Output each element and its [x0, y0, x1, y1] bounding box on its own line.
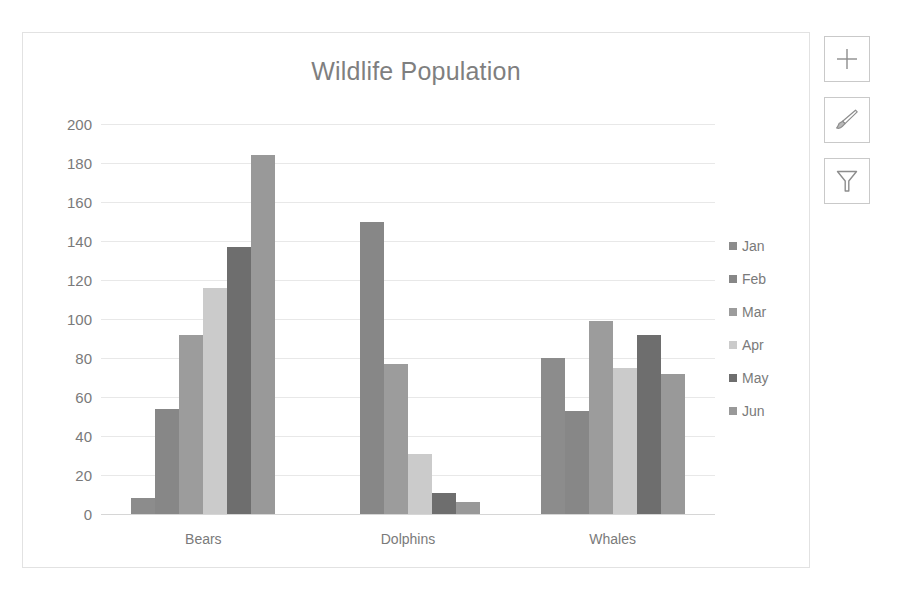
y-axis-tick-label: 100: [67, 311, 92, 328]
bar[interactable]: [131, 498, 155, 514]
legend-item-jun[interactable]: Jun: [729, 394, 809, 427]
bar[interactable]: [155, 409, 179, 514]
y-axis-tick-label: 20: [75, 467, 92, 484]
plot-area: 020406080100120140160180200 BearsDolphin…: [101, 124, 715, 514]
plus-icon: [834, 46, 860, 72]
y-axis-tick-label: 40: [75, 428, 92, 445]
paintbrush-icon: [833, 106, 861, 134]
bar[interactable]: [541, 358, 565, 514]
bar[interactable]: [456, 502, 480, 514]
legend-label: Feb: [742, 271, 766, 287]
funnel-icon: [834, 168, 860, 194]
bar-group-whales: [541, 124, 685, 514]
chart-styles-button[interactable]: [824, 97, 870, 143]
bar[interactable]: [251, 155, 275, 514]
bar[interactable]: [360, 222, 384, 515]
legend-label: Apr: [742, 337, 764, 353]
chart-filters-button[interactable]: [824, 158, 870, 204]
legend-swatch-icon: [729, 242, 737, 250]
legend-item-may[interactable]: May: [729, 361, 809, 394]
bar[interactable]: [565, 411, 589, 514]
y-axis-tick-label: 60: [75, 389, 92, 406]
chart-title: Wildlife Population: [23, 57, 809, 86]
legend-label: Jan: [742, 238, 765, 254]
legend-item-feb[interactable]: Feb: [729, 262, 809, 295]
bar[interactable]: [227, 247, 251, 514]
chart-elements-button[interactable]: [824, 36, 870, 82]
chart-legend[interactable]: JanFebMarAprMayJun: [729, 229, 809, 427]
bar[interactable]: [637, 335, 661, 514]
bar[interactable]: [432, 493, 456, 514]
x-axis-category-label: Bears: [185, 531, 222, 547]
bar[interactable]: [179, 335, 203, 514]
bar[interactable]: [203, 288, 227, 514]
y-axis-tick-label: 120: [67, 272, 92, 289]
y-axis-tick-label: 200: [67, 116, 92, 133]
bar[interactable]: [408, 454, 432, 514]
legend-item-apr[interactable]: Apr: [729, 328, 809, 361]
chart-tools-toolbar: [824, 36, 872, 219]
legend-swatch-icon: [729, 308, 737, 316]
legend-label: May: [742, 370, 768, 386]
x-axis-category-label: Dolphins: [381, 531, 435, 547]
bar-group-bears: [131, 124, 275, 514]
bar[interactable]: [661, 374, 685, 514]
legend-label: Mar: [742, 304, 766, 320]
legend-item-jan[interactable]: Jan: [729, 229, 809, 262]
y-axis-tick-label: 140: [67, 233, 92, 250]
legend-swatch-icon: [729, 341, 737, 349]
bar[interactable]: [613, 368, 637, 514]
bar[interactable]: [384, 364, 408, 514]
bar-group-dolphins: [336, 124, 480, 514]
y-axis-tick-label: 0: [84, 506, 92, 523]
legend-label: Jun: [742, 403, 765, 419]
legend-swatch-icon: [729, 275, 737, 283]
x-axis-line: [101, 514, 715, 515]
legend-swatch-icon: [729, 407, 737, 415]
legend-item-mar[interactable]: Mar: [729, 295, 809, 328]
chart-container[interactable]: Wildlife Population 02040608010012014016…: [22, 32, 810, 568]
x-axis-category-label: Whales: [589, 531, 636, 547]
y-axis-tick-label: 160: [67, 194, 92, 211]
y-axis-tick-label: 80: [75, 350, 92, 367]
legend-swatch-icon: [729, 374, 737, 382]
bar[interactable]: [589, 321, 613, 514]
bars-layer: [101, 124, 715, 514]
y-axis-tick-label: 180: [67, 155, 92, 172]
